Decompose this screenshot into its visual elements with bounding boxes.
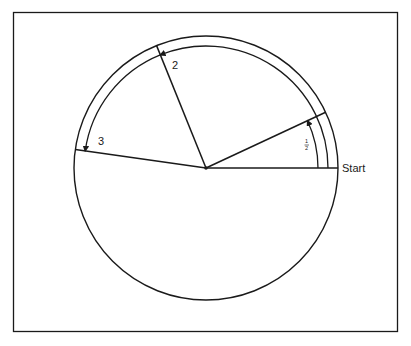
arc-turn-3	[85, 55, 160, 151]
center-point	[204, 166, 208, 170]
label-three: 3	[98, 135, 104, 147]
diagram-frame	[14, 13, 398, 332]
radius-turn-3	[75, 150, 206, 168]
label-start: Start	[342, 162, 365, 174]
rotation-diagram: Start 2 3 1 2	[0, 0, 411, 346]
label-two: 2	[172, 59, 178, 71]
label-half-denominator: 2	[305, 145, 308, 151]
label-half-numerator: 1	[305, 138, 308, 144]
radius-turn-2	[157, 46, 206, 168]
arc-half-turn	[308, 121, 319, 168]
